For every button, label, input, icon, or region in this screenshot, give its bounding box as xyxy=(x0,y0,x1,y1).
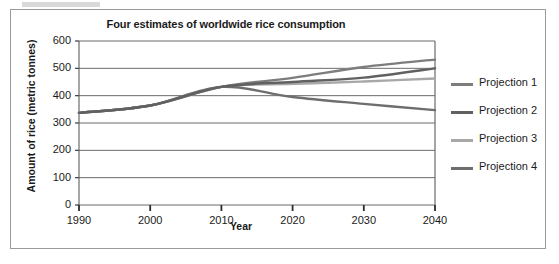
x-tick-label: 2030 xyxy=(341,215,387,226)
y-tick-label: 200 xyxy=(37,144,71,155)
x-tick-label: 1990 xyxy=(56,215,102,226)
legend-label: Projection 3 xyxy=(479,132,537,144)
chart-frame: Four estimates of worldwide rice consump… xyxy=(10,9,546,249)
x-tick-label: 2000 xyxy=(127,215,173,226)
y-tick-label: 100 xyxy=(37,172,71,183)
y-tick-label: 600 xyxy=(37,35,71,46)
plot-area xyxy=(11,10,545,248)
legend-label: Projection 4 xyxy=(479,160,537,172)
top-edge-artifact xyxy=(22,2,100,7)
y-tick-label: 400 xyxy=(37,90,71,101)
legend-swatch-icon xyxy=(451,83,473,86)
y-tick-label: 0 xyxy=(37,199,71,210)
legend-label: Projection 1 xyxy=(479,76,537,88)
chart-figure: Four estimates of worldwide rice consump… xyxy=(0,0,559,264)
legend-swatch-icon xyxy=(451,167,473,170)
x-tick-label: 2010 xyxy=(198,215,244,226)
legend-swatch-icon xyxy=(451,139,473,142)
legend-swatch-icon xyxy=(451,111,473,114)
y-tick-label: 500 xyxy=(37,62,71,73)
x-tick-label: 2020 xyxy=(270,215,316,226)
x-tick-label: 2040 xyxy=(412,215,458,226)
y-tick-label: 300 xyxy=(37,117,71,128)
legend-label: Projection 2 xyxy=(479,104,537,116)
